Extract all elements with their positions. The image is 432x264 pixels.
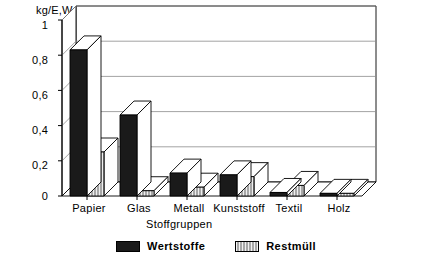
legend-label: Restmüll <box>266 240 316 252</box>
legend-swatch-icon <box>235 241 259 252</box>
plot-area <box>0 0 432 264</box>
chart-legend: Wertstoffe Restmüll <box>0 240 432 252</box>
legend-swatch-icon <box>116 241 140 252</box>
plot-svg <box>0 0 432 264</box>
x-axis-title: Stoffgruppen <box>146 218 212 230</box>
x-axis-category-label: Holz <box>327 202 350 214</box>
x-axis-category-label: Metall <box>173 202 204 214</box>
x-axis-category-label: Glas <box>127 202 151 214</box>
x-axis-category-label: Textil <box>276 202 303 214</box>
legend-label: Wertstoffe <box>147 240 205 252</box>
x-axis-category-label: Papier <box>72 202 106 214</box>
x-axis-category-label: Kunststoff <box>213 202 265 214</box>
bar-chart: kg/E,Wo 1 0,8 0,6 0,4 0,2 0 PapierGlasMe… <box>0 0 432 264</box>
legend-entry-restmuell: Restmüll <box>235 240 316 252</box>
legend-entry-wertstoffe: Wertstoffe <box>116 240 205 252</box>
